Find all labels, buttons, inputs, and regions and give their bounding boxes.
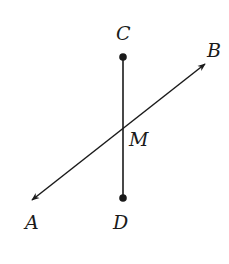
label-c: C [116,22,131,44]
line-ab [32,64,205,200]
label-b: B [206,39,221,61]
label-m: M [128,128,149,150]
geometry-diagram: C B M A D [0,0,229,264]
point-c-dot [119,53,127,61]
label-a: A [23,211,39,233]
point-d-dot [119,194,127,202]
label-d: D [112,211,128,233]
